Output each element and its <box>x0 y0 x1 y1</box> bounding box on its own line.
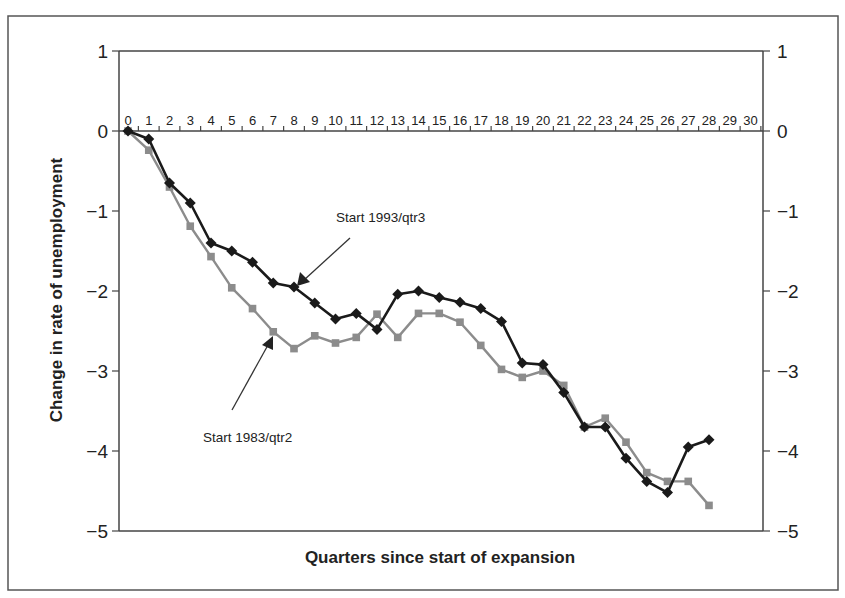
x-tick-label: 12 <box>370 113 384 128</box>
y-axis-left-ticks: 10−1−2−3−4−5 <box>86 41 119 542</box>
diamond-marker <box>413 286 424 297</box>
x-tick-label: 11 <box>350 113 364 128</box>
x-axis-title: Quarters since start of expansion <box>305 548 575 567</box>
x-tick-label: 20 <box>536 113 550 128</box>
diamond-marker <box>455 297 466 308</box>
annotation-1993: Start 1993/qtr3 <box>336 210 425 225</box>
square-marker <box>456 318 464 326</box>
y-tick-label-left: −5 <box>86 521 108 542</box>
x-tick-label: 16 <box>453 113 467 128</box>
diamond-marker <box>434 292 445 303</box>
square-marker <box>435 310 443 318</box>
x-tick-label: 30 <box>743 113 757 128</box>
square-marker <box>186 222 194 230</box>
y-tick-label-right: 1 <box>777 41 788 62</box>
square-marker <box>498 366 506 374</box>
square-marker <box>415 310 423 318</box>
annotation-arrow-1983 <box>232 345 268 410</box>
diamond-marker <box>143 134 154 145</box>
diamond-marker <box>662 487 673 498</box>
x-tick-label: 25 <box>640 113 654 128</box>
square-marker <box>373 310 381 318</box>
square-marker <box>518 374 526 382</box>
square-marker <box>207 253 215 261</box>
x-tick-label: 24 <box>619 113 633 128</box>
diamond-marker <box>226 246 237 257</box>
square-marker <box>643 469 651 477</box>
y-tick-label-right: −2 <box>777 281 799 302</box>
series-line <box>128 131 709 505</box>
series-layer <box>123 126 715 510</box>
square-marker <box>249 305 257 313</box>
x-tick-label: 28 <box>702 113 716 128</box>
x-tick-label: 15 <box>432 113 446 128</box>
square-marker <box>290 345 298 353</box>
y-axis-right-ticks: 10−1−2−3−4−5 <box>763 41 799 542</box>
y-tick-label-right: −5 <box>777 521 799 542</box>
x-tick-label: 21 <box>557 113 571 128</box>
x-tick-label: 6 <box>249 113 256 128</box>
annotation-arrow-1993 <box>304 238 350 280</box>
square-marker <box>622 438 630 446</box>
x-tick-label: 7 <box>270 113 277 128</box>
y-tick-label-left: 1 <box>97 41 108 62</box>
arrow-head-1983 <box>262 336 273 350</box>
y-tick-label-left: −4 <box>86 441 108 462</box>
y-tick-label-left: −2 <box>86 281 108 302</box>
y-tick-label-left: 0 <box>97 121 108 142</box>
x-tick-label: 26 <box>660 113 674 128</box>
x-tick-label: 8 <box>290 113 297 128</box>
y-axis-title: Change in rate of unemployment <box>47 157 66 422</box>
y-tick-label-left: −1 <box>86 201 108 222</box>
y-tick-label-right: 0 <box>777 121 788 142</box>
x-tick-label: 10 <box>328 113 342 128</box>
arrow-head-1993 <box>297 272 310 286</box>
square-marker <box>684 478 692 486</box>
diamond-marker <box>206 238 217 249</box>
diamond-marker <box>517 358 528 369</box>
x-axis-ticks: 0123456789101112131415161718192021222324… <box>124 113 760 131</box>
square-marker <box>705 502 713 510</box>
y-tick-label-right: −3 <box>777 361 799 382</box>
square-marker <box>352 334 360 342</box>
y-tick-label-right: −1 <box>777 201 799 222</box>
x-tick-label: 9 <box>311 113 318 128</box>
x-tick-label: 1 <box>145 113 152 128</box>
x-tick-label: 22 <box>577 113 591 128</box>
x-tick-label: 13 <box>391 113 405 128</box>
series-1983-qtr2 <box>124 127 713 509</box>
outer-frame <box>8 16 838 590</box>
annotation-1983: Start 1983/qtr2 <box>203 430 292 445</box>
square-marker <box>394 334 402 342</box>
x-tick-label: 18 <box>494 113 508 128</box>
unemployment-change-chart: 0123456789101112131415161718192021222324… <box>0 0 845 598</box>
x-tick-label: 17 <box>474 113 488 128</box>
x-tick-label: 14 <box>411 113 425 128</box>
x-tick-label: 3 <box>187 113 194 128</box>
x-tick-label: 4 <box>207 113 214 128</box>
x-tick-label: 23 <box>598 113 612 128</box>
square-marker <box>269 328 277 336</box>
diamond-marker <box>704 434 715 445</box>
square-marker <box>601 414 609 422</box>
square-marker <box>477 342 485 350</box>
y-tick-label-left: −3 <box>86 361 108 382</box>
x-tick-label: 2 <box>166 113 173 128</box>
y-tick-label-right: −4 <box>777 441 799 462</box>
x-tick-label: 19 <box>515 113 529 128</box>
diamond-marker <box>579 422 590 433</box>
square-marker <box>228 284 236 292</box>
diamond-marker <box>392 289 403 300</box>
x-tick-label: 29 <box>723 113 737 128</box>
square-marker <box>332 339 340 347</box>
square-marker <box>311 332 319 340</box>
x-tick-label: 27 <box>681 113 695 128</box>
diamond-marker <box>683 442 694 453</box>
x-tick-label: 5 <box>228 113 235 128</box>
